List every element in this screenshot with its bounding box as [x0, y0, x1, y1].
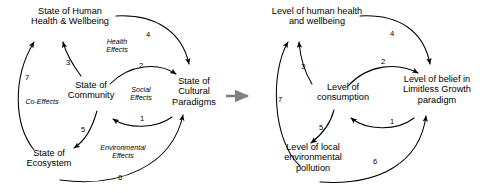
left-label-social-effects: Social Effects	[120, 86, 162, 102]
left-edge-number-5: 5	[78, 126, 88, 134]
right-edge-number-2: 2	[378, 58, 388, 66]
left-label-health-effects: Health Effects	[96, 38, 138, 54]
diagram-canvas: State of Human Health & Wellbeing State …	[0, 0, 486, 193]
right-edge-number-4: 4	[387, 30, 397, 38]
right-edge-number-5: 5	[316, 124, 326, 132]
left-edge-number-6: 6	[115, 174, 125, 182]
left-label-co-effects: Co-Effects	[15, 98, 69, 106]
left-edge-number-3: 3	[63, 59, 73, 67]
right-edge-number-6: 6	[370, 158, 380, 166]
left-edge-number-2: 2	[136, 62, 146, 70]
right-edge-1-arrow	[351, 118, 414, 128]
left-edge-number-1: 1	[137, 115, 147, 123]
left-edge-number-7: 7	[22, 74, 32, 82]
right-node-pollution: Level of local environmental pollution	[272, 142, 354, 173]
left-node-ecosystem: State of Ecosystem	[13, 148, 85, 169]
right-node-belief: Level of belief in Limitless Growth para…	[390, 74, 484, 105]
right-edge-number-7: 7	[275, 96, 285, 104]
left-node-cultural-paradigms: State of Cultural Paradigms	[162, 76, 226, 107]
right-edge-number-1: 1	[387, 118, 397, 126]
left-edge-7-arrow	[18, 42, 34, 150]
right-node-human-health: Level of human health and wellbeing	[253, 6, 381, 27]
left-label-environmental-effects: Environmental Effects	[90, 144, 156, 160]
right-edge-number-3: 3	[298, 63, 308, 71]
left-node-human-health: State of Human Health & Wellbeing	[9, 6, 131, 27]
left-edge-number-4: 4	[143, 31, 153, 39]
right-node-consumption: Level of consumption	[303, 82, 383, 103]
